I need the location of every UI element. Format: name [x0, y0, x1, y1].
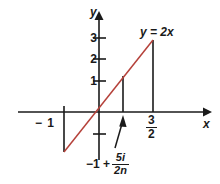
x-tick-label-minus-one: − 1	[35, 117, 55, 129]
y-tick-label-2: 2	[83, 53, 97, 65]
annotation-lead-term: −1 +	[86, 158, 110, 170]
sample-point-annotation: −1 + 5i 2n	[86, 152, 129, 176]
x-tick-label-three-halves: 3 2	[146, 114, 157, 140]
annotation-numerator: 5i	[112, 152, 129, 163]
annotation-denominator: 2n	[112, 164, 129, 176]
fraction-numerator: 3	[146, 114, 157, 126]
y-tick-label-1: 1	[83, 75, 97, 87]
curve-label: y = 2x	[140, 26, 174, 38]
annotation-arrow-icon	[115, 115, 127, 148]
fraction-denominator: 2	[146, 127, 157, 140]
curve-y-equals-2x	[64, 40, 153, 152]
y-axis-label: y	[90, 6, 97, 18]
graph-figure: y x 3 2 1 − 1 3 2 y = 2x −1 + 5i 2n	[0, 0, 220, 184]
y-tick-label-3: 3	[83, 32, 97, 44]
x-axis-label: x	[203, 118, 210, 130]
fraction-three-halves: 3 2	[146, 114, 157, 140]
fraction-five-i-over-two-n: 5i 2n	[112, 152, 129, 176]
